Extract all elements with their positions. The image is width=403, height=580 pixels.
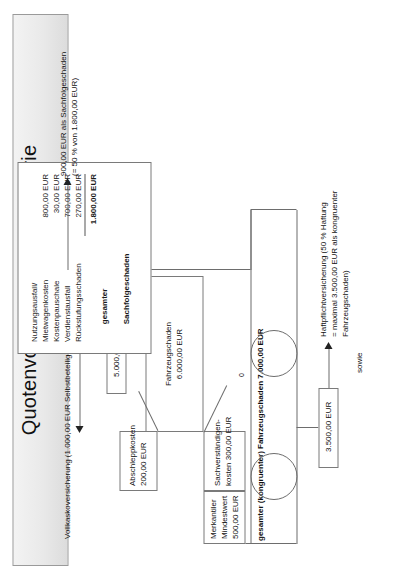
liability-note-line3: Fahrzeugschaden) <box>340 270 351 337</box>
row-label: Rückstufungsschaden <box>72 263 83 342</box>
node-circle-middle <box>250 330 297 377</box>
table-row: Mietwagenkosten 800,00 EUR <box>39 174 50 342</box>
row-value: 270,00 EUR <box>72 174 83 218</box>
spine-right-edge <box>250 209 296 210</box>
row-value: 30,00 EUR <box>50 174 61 213</box>
liability-note-line2: = maximal 3.500,00 EUR als kongruenter <box>329 190 340 337</box>
vollkasko-arrow-line <box>79 354 80 426</box>
table-total-rule <box>84 174 85 236</box>
merkantiler-label: Merkantiler <box>208 499 219 539</box>
abschleppkosten-value: 200,00 EUR <box>138 442 149 486</box>
sachfolgeschaden-table: Nutzungsausfall/ Mietwagenkosten 800,00 … <box>28 174 142 342</box>
node-circle-left <box>250 453 297 500</box>
merkantiler-value: 500,00 EUR <box>230 495 241 539</box>
liability-payout-value: 3.500,00 EUR <box>323 402 334 452</box>
sachverstaendigen-label2: kosten 300,00 EUR <box>223 417 234 486</box>
slide-canvas: Quotenvorrecht/Differenztheorie Beispiel… <box>0 0 403 580</box>
sachverstaendigen-label: Sachverständigen- <box>212 419 223 486</box>
table-row: Rückstufungsschaden 270,00 EUR <box>72 174 83 342</box>
result-arrow-line <box>67 184 68 270</box>
merkantiler-label2: Mindestwert <box>219 496 230 539</box>
strip-left-edge <box>245 543 296 544</box>
table-row: Nutzungsausfall/ <box>28 174 39 342</box>
axis-zero-label: 0 <box>236 373 247 377</box>
liability-arrow-head <box>324 342 332 349</box>
liability-stem-left <box>296 427 318 428</box>
table-total-row: gesamter Sachfolgeschaden 1.800,00 EUR <box>87 174 142 342</box>
result-note-line1: 900,00 EUR als Sachfolgeschaden <box>58 52 69 176</box>
total-value: 1.800,00 EUR <box>87 174 142 224</box>
result-note-line2: (= 50 % von 1.800,00 EUR) <box>69 78 80 176</box>
total-label-line2: Sachfolgeschaden <box>121 254 130 325</box>
total-label-line1: gesamter <box>99 289 108 325</box>
fahrzeugschaden-value: 6.000,00 EUR <box>174 321 185 387</box>
row-label: Nutzungsausfall/ <box>28 283 39 342</box>
liability-note-line1: Haftpflichtversicherung (50 % Haftung <box>318 202 329 337</box>
row-label: Kostenpauschale <box>50 281 61 342</box>
sachfolge-connector-down <box>151 269 250 270</box>
table-row: Verdienstausfall 700,00 EUR <box>61 174 72 342</box>
sachfolge-connector-bottom <box>250 210 251 270</box>
liability-arrow-line <box>328 348 329 388</box>
fahrzeugschaden-label: Fahrzeugschaden <box>163 321 174 387</box>
vollkasko-note: Vollkaskoversicherung (1.000,00 EUR Selb… <box>62 338 73 539</box>
row-label: Verdienstausfall <box>61 286 72 342</box>
vollkasko-arrow-head <box>75 426 83 433</box>
axis-spine-lower <box>296 210 297 544</box>
result-arrow-head <box>63 178 71 185</box>
row-value: 800,00 EUR <box>39 174 50 218</box>
sowie-label: sowie <box>354 353 365 373</box>
table-row: Kostenpauschale 30,00 EUR <box>50 174 61 342</box>
abschleppkosten-label: Abschleppkosten <box>127 425 138 486</box>
row-label: Mietwagenkosten <box>39 280 50 342</box>
